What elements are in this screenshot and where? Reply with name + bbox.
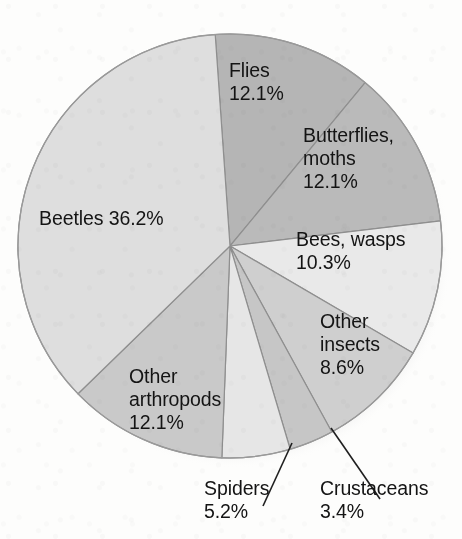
callout-label-crustaceans: Crustaceans 3.4% <box>320 477 428 523</box>
callout-label-spiders: Spiders 5.2% <box>204 477 269 523</box>
pie-slices-group <box>18 34 442 458</box>
pie-chart-canvas <box>0 0 462 539</box>
pie-chart-figure: Flies 12.1% Butterflies, moths 12.1% Bee… <box>0 0 462 539</box>
